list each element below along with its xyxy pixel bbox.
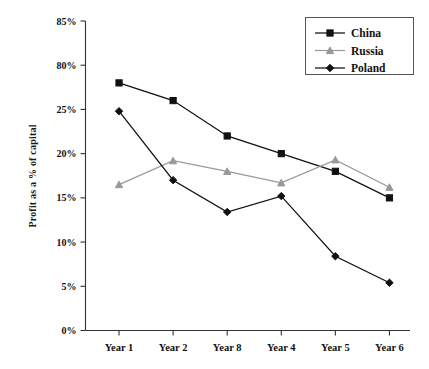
chart-canvas: Profit as a % of capital 0%5%10%15%20%25… — [0, 0, 429, 369]
legend: ChinaRussiaPoland — [306, 18, 414, 75]
x-axis-ticks: Year 1Year 2Year 8Year 4Year 5Year 6 — [105, 331, 404, 353]
series-layer — [115, 80, 393, 287]
legend-label: Poland — [351, 62, 386, 74]
series-russia — [115, 156, 393, 190]
data-point-marker — [115, 181, 122, 188]
y-tick-label: 85% — [57, 16, 77, 27]
y-tick-label: 10% — [57, 237, 77, 248]
y-axis-ticks: 0%5%10%15%20%25%80%85% — [57, 16, 86, 337]
y-tick-label: 25% — [57, 104, 77, 115]
x-tick-label: Year 2 — [159, 342, 188, 353]
y-tick-label: 80% — [57, 60, 77, 71]
legend-label: China — [351, 27, 381, 39]
x-tick-label: Year 4 — [267, 342, 296, 353]
data-point-marker — [116, 80, 122, 86]
x-tick-label: Year 6 — [375, 342, 404, 353]
line-chart: Profit as a % of capital 0%5%10%15%20%25… — [0, 0, 429, 369]
data-point-marker — [170, 97, 176, 103]
y-tick-label: 20% — [57, 148, 77, 159]
x-tick-label: Year 5 — [321, 342, 350, 353]
data-point-marker — [386, 184, 393, 191]
y-tick-label: 0% — [62, 325, 77, 336]
y-tick-label: 5% — [62, 281, 77, 292]
x-tick-label: Year 8 — [213, 342, 242, 353]
x-tick-label: Year 1 — [105, 342, 134, 353]
y-axis-title: Profit as a % of capital — [27, 124, 38, 227]
data-point-marker — [170, 157, 177, 164]
series-china — [116, 80, 393, 201]
data-point-marker — [278, 151, 284, 157]
legend-marker — [327, 30, 333, 36]
data-point-marker — [386, 195, 392, 201]
data-point-marker — [332, 168, 338, 174]
legend-label: Russia — [351, 45, 384, 57]
y-tick-label: 15% — [57, 192, 77, 203]
data-point-marker — [386, 279, 393, 286]
data-point-marker — [332, 156, 339, 163]
series-poland — [115, 107, 393, 286]
data-point-marker — [223, 208, 230, 215]
data-point-marker — [224, 133, 230, 139]
